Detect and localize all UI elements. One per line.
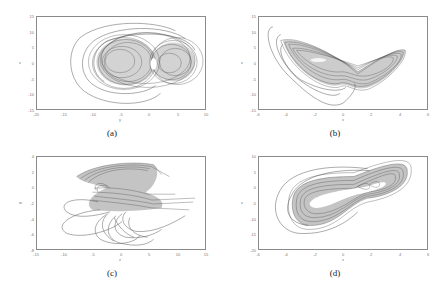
y-tick-d-2: 0 bbox=[244, 185, 256, 190]
y-tick-c-2: 0 bbox=[22, 185, 34, 190]
x-tick-a-0: -20 bbox=[33, 112, 39, 117]
y-tick-a-0: 15 bbox=[22, 14, 34, 19]
attractor-zw-plot bbox=[37, 157, 205, 249]
y-tick-c-5: -6 bbox=[22, 232, 34, 237]
plot-area-c bbox=[36, 156, 206, 250]
x-tick-c-1: -10 bbox=[61, 252, 67, 257]
x-tick-b-2: -2 bbox=[313, 112, 317, 117]
attractor-xz-plot-d bbox=[259, 157, 427, 249]
y-axis-label-b: z bbox=[241, 60, 243, 65]
x-tick-b-0: -6 bbox=[256, 112, 260, 117]
x-tick-c-5: 10 bbox=[176, 252, 180, 257]
y-tick-a-3: 0 bbox=[22, 61, 34, 66]
x-tick-b-5: 4 bbox=[399, 112, 401, 117]
x-tick-b-1: -4 bbox=[284, 112, 288, 117]
plot-area-d bbox=[258, 156, 428, 250]
x-tick-d-1: -4 bbox=[284, 252, 288, 257]
y-tick-d-3: -5 bbox=[244, 201, 256, 206]
y-tick-c-0: 4 bbox=[22, 154, 34, 159]
x-tick-a-2: -10 bbox=[90, 112, 96, 117]
y-tick-b-1: 10 bbox=[244, 30, 256, 35]
y-tick-a-5: -10 bbox=[22, 92, 34, 97]
y-tick-c-1: 2 bbox=[22, 170, 34, 175]
y-tick-d-1: 5 bbox=[244, 170, 256, 175]
x-axis-label-d: x bbox=[342, 257, 344, 262]
x-tick-c-4: 5 bbox=[148, 252, 150, 257]
y-tick-b-4: -5 bbox=[244, 77, 256, 82]
attractor-xz-plot bbox=[259, 17, 427, 109]
y-tick-c-4: -4 bbox=[22, 217, 34, 222]
x-tick-d-4: 2 bbox=[370, 252, 372, 257]
y-tick-a-1: 10 bbox=[22, 30, 34, 35]
y-tick-d-5: -15 bbox=[244, 232, 256, 237]
y-axis-label-c: w bbox=[19, 200, 22, 205]
x-axis-label-b: x bbox=[342, 117, 344, 122]
x-tick-c-2: -5 bbox=[91, 252, 95, 257]
x-tick-b-6: 6 bbox=[427, 112, 429, 117]
y-tick-b-3: 0 bbox=[244, 61, 256, 66]
y-tick-b-5: -10 bbox=[244, 92, 256, 97]
x-tick-d-2: -2 bbox=[313, 252, 317, 257]
x-tick-d-0: -6 bbox=[256, 252, 260, 257]
caption-a: (a) bbox=[107, 128, 117, 138]
y-tick-b-2: 5 bbox=[244, 45, 256, 50]
x-tick-a-4: 0 bbox=[148, 112, 150, 117]
caption-b: (b) bbox=[330, 128, 341, 138]
x-tick-a-1: -15 bbox=[61, 112, 67, 117]
x-tick-d-6: 6 bbox=[427, 252, 429, 257]
attractor-yz-plot bbox=[37, 17, 205, 109]
y-tick-d-0: 10 bbox=[244, 154, 256, 159]
caption-c: (c) bbox=[107, 268, 117, 278]
y-axis-label-d: z bbox=[241, 200, 243, 205]
y-tick-d-6: -20 bbox=[244, 248, 256, 253]
x-tick-a-6: 10 bbox=[204, 112, 208, 117]
y-tick-b-0: 15 bbox=[244, 14, 256, 19]
y-tick-c-3: -2 bbox=[22, 201, 34, 206]
x-tick-c-6: 15 bbox=[204, 252, 208, 257]
y-tick-a-2: 5 bbox=[22, 45, 34, 50]
x-tick-d-5: 4 bbox=[399, 252, 401, 257]
y-tick-d-4: -10 bbox=[244, 217, 256, 222]
y-tick-a-4: -5 bbox=[22, 77, 34, 82]
x-tick-a-5: 5 bbox=[177, 112, 179, 117]
y-axis-label-a: z bbox=[19, 60, 21, 65]
x-tick-b-4: 2 bbox=[370, 112, 372, 117]
x-tick-c-0: -15 bbox=[33, 252, 39, 257]
plot-area-a bbox=[36, 16, 206, 110]
caption-d: (d) bbox=[330, 268, 341, 278]
plot-area-b bbox=[258, 16, 428, 110]
x-axis-label-c: z bbox=[119, 257, 121, 262]
x-axis-label-a: y bbox=[119, 117, 121, 122]
y-tick-b-6: -15 bbox=[244, 108, 256, 113]
